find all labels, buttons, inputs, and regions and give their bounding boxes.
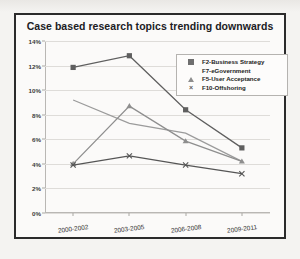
x-tick-label: 2006-2008 <box>170 223 201 234</box>
legend: F2-Business Strategy F7-eGovernment F5-U… <box>176 54 288 96</box>
chart-title: Case based research topics trending down… <box>16 20 284 32</box>
legend-swatch-business-strategy <box>180 58 202 66</box>
x-tick-mark <box>129 213 130 216</box>
legend-item[interactable]: F2-Business Strategy <box>180 58 283 66</box>
data-point-triangle <box>126 103 132 108</box>
gridline <box>45 213 270 214</box>
x-tick-mark <box>73 213 74 216</box>
legend-item[interactable]: F5-User Acceptance <box>180 75 283 83</box>
legend-item[interactable]: × F10-Offshoring <box>180 84 283 92</box>
legend-label-business-strategy: F2-Business Strategy <box>202 58 264 66</box>
y-tick-label: 12% <box>29 62 41 69</box>
series-line <box>73 106 242 164</box>
y-tick-label: 10% <box>29 87 41 94</box>
legend-swatch-egovernment <box>180 67 202 75</box>
data-point-square <box>183 107 188 112</box>
legend-label-user-acceptance: F5-User Acceptance <box>202 75 260 83</box>
y-tick-label: 0% <box>32 210 41 217</box>
y-tick-label: 8% <box>32 111 41 118</box>
data-point-triangle <box>183 138 189 143</box>
chart-screenshot: Case based research topics trending down… <box>0 0 300 259</box>
chart-frame: Case based research topics trending down… <box>14 13 286 239</box>
legend-item[interactable]: F7-eGovernment <box>180 67 283 75</box>
data-point-square <box>239 145 244 150</box>
x-tick-mark <box>185 213 186 216</box>
legend-label-offshoring: F10-Offshoring <box>202 84 246 92</box>
y-tick-label: 6% <box>32 136 41 143</box>
legend-label-egovernment: F7-eGovernment <box>202 67 250 75</box>
y-tick-label: 2% <box>32 185 41 192</box>
legend-swatch-offshoring: × <box>180 84 202 92</box>
y-tick-label: 4% <box>32 160 41 167</box>
x-tick-label: 2009-2011 <box>227 223 258 234</box>
y-tick-label: 14% <box>29 38 41 45</box>
legend-swatch-user-acceptance <box>180 75 202 83</box>
x-tick-label: 2000-2002 <box>58 223 89 234</box>
data-point-square <box>71 65 76 70</box>
x-tick-label: 2003-2005 <box>114 223 145 234</box>
data-point-square <box>127 53 132 58</box>
scan-artifact <box>0 0 300 12</box>
x-tick-mark <box>241 213 242 216</box>
series-line <box>73 156 242 174</box>
